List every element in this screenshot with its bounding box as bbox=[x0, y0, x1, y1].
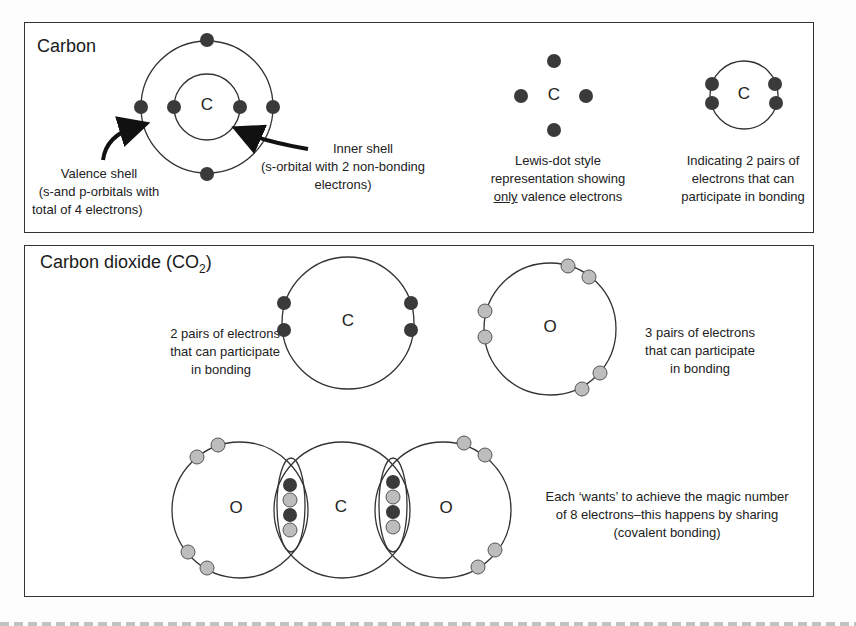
molecule-carbon: C bbox=[331, 498, 351, 516]
lewis-symbol-carbon: C bbox=[544, 86, 564, 104]
clipped-caption-text bbox=[0, 612, 856, 626]
atom-symbol-carbon: C bbox=[197, 96, 217, 114]
carbon-pairs-label: 2 pairs of electrons that can participat… bbox=[132, 325, 280, 379]
co2-oxygen-symbol: O bbox=[540, 318, 560, 336]
valence-arrow-icon bbox=[103, 127, 135, 160]
molecule-left-oxygen: O bbox=[226, 499, 246, 517]
lewis-dot-label: Lewis-dot style representation showing o… bbox=[478, 152, 638, 206]
pairs-symbol-carbon: C bbox=[734, 85, 754, 103]
pairs-label: Indicating 2 pairs of electrons that can… bbox=[668, 152, 818, 206]
oxygen-pairs-label: 3 pairs of electrons that can participat… bbox=[630, 324, 770, 378]
covalent-bonding-explanation: Each ‘wants’ to achieve the magic number… bbox=[527, 488, 807, 542]
inner-shell-label: Inner shell (s-orbital with 2 non-bondin… bbox=[248, 140, 438, 194]
co2-carbon-symbol: C bbox=[338, 312, 358, 330]
valence-shell-label: Valence shell (s-and p-orbitals with tot… bbox=[24, 165, 174, 219]
molecule-right-oxygen: O bbox=[436, 499, 456, 517]
